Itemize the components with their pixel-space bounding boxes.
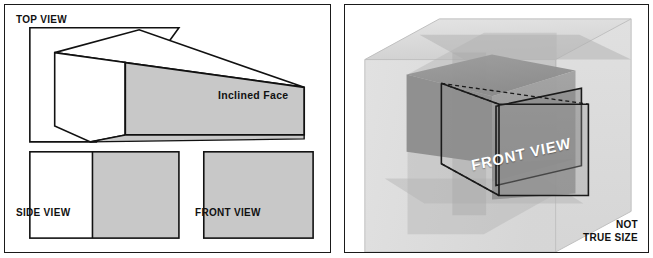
block-left-face [55, 53, 126, 142]
glass-box-pictorial-panel: FRONT VIEW NOT TRUE SIZE [344, 4, 649, 253]
orthographic-views-drawing [5, 5, 330, 252]
figure-root: TOP VIEW SIDE VIEW FRONT VIEW Inclined F… [0, 0, 653, 258]
inclined-block-pictorial [55, 30, 304, 142]
glass-box-drawing [345, 5, 648, 252]
orthographic-views-panel: TOP VIEW SIDE VIEW FRONT VIEW Inclined F… [4, 4, 331, 253]
block-bottom-edge [90, 135, 304, 142]
front-view-projection-rect-fill [499, 104, 588, 195]
side-view-white-region [30, 152, 93, 238]
side-view-gray-region [92, 152, 178, 238]
front-view-outline [204, 152, 313, 238]
